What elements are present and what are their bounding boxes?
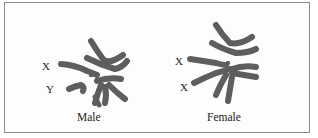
female-x-label-2: X xyxy=(180,81,188,93)
female-caption: Female xyxy=(207,111,241,123)
male-caption: Male xyxy=(77,111,101,123)
female-panel: X X Female xyxy=(160,3,310,132)
female-x-label-1: X xyxy=(175,55,183,67)
male-y-label: Y xyxy=(46,83,54,95)
male-x-label: X xyxy=(42,60,50,72)
male-panel: X Y Male xyxy=(5,3,160,132)
figure-frame: X Y Male X X Female xyxy=(4,2,310,133)
